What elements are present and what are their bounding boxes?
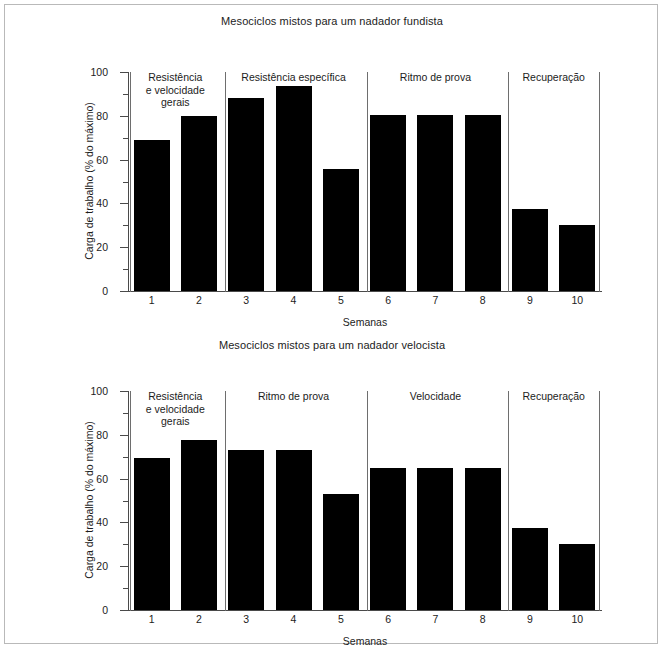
x-tick-label-5: 5	[317, 613, 364, 625]
phase-label-line: Velocidade	[365, 390, 507, 403]
y-tick-label: 100	[90, 66, 108, 78]
phase-label-line: Ritmo de prova	[223, 390, 365, 403]
y-axis-title-fundista: Carga de trabalho (% do máximo)	[83, 72, 95, 291]
phase-label-line: gerais	[128, 415, 223, 428]
x-tick-label-10: 10	[554, 613, 601, 625]
chart-figure-fundista: Mesociclos mistos para um nadador fundis…	[5, 9, 659, 327]
bar-week-7	[417, 115, 453, 291]
x-tick-label-8: 8	[459, 613, 506, 625]
bar-week-2	[181, 440, 217, 610]
bar-week-8	[465, 468, 501, 610]
bar-week-5	[323, 494, 359, 610]
y-axis-tick-labels-velocista: 020406080100	[112, 391, 128, 610]
phase-label-line: Resistência	[128, 390, 223, 403]
x-tick-label-4: 4	[270, 613, 317, 625]
bar-week-9	[512, 209, 548, 291]
phase-label-line: Recuperação	[506, 71, 601, 84]
bar-week-4	[276, 450, 312, 610]
bar-week-3	[228, 98, 264, 291]
phase-divider	[508, 391, 509, 611]
bar-week-7	[417, 468, 453, 610]
x-axis-line-velocista	[128, 610, 602, 611]
phase-divider	[508, 72, 509, 292]
phase-label-line: e velocidade	[128, 84, 223, 97]
y-axis-title-velocista: Carga de trabalho (% do máximo)	[83, 391, 95, 610]
x-tick-label-7: 7	[412, 294, 459, 306]
y-tick-label: 20	[96, 560, 108, 572]
phase-divider	[367, 72, 368, 292]
y-tick-major	[120, 610, 128, 611]
x-tick-label-9: 9	[506, 294, 553, 306]
chart-title-fundista: Mesociclos mistos para um nadador fundis…	[5, 15, 659, 27]
phase-divider	[225, 72, 226, 292]
phase-label: Resistência específica	[223, 71, 365, 84]
phase-label-line: Recuperação	[506, 390, 601, 403]
phase-label: Ritmo de prova	[223, 390, 365, 403]
chart-figure-velocista: Mesociclos mistos para um nadador veloci…	[5, 333, 659, 641]
x-tick-label-2: 2	[175, 294, 222, 306]
x-tick-label-8: 8	[459, 294, 506, 306]
chart-title-velocista: Mesociclos mistos para um nadador veloci…	[5, 339, 659, 351]
phase-label-line: Resistência	[128, 71, 223, 84]
x-tick-label-2: 2	[175, 613, 222, 625]
phase-label: Resistênciae velocidadegerais	[128, 390, 223, 428]
bar-week-8	[465, 115, 501, 291]
x-tick-label-5: 5	[317, 294, 364, 306]
x-tick-label-6: 6	[365, 294, 412, 306]
y-tick-label: 60	[96, 473, 108, 485]
x-tick-label-1: 1	[128, 613, 175, 625]
bar-week-1	[134, 140, 170, 291]
figure-page-border: Mesociclos mistos para um nadador fundis…	[4, 4, 658, 644]
x-tick-label-9: 9	[506, 613, 553, 625]
y-tick-label: 0	[102, 285, 108, 297]
bar-week-1	[134, 458, 170, 610]
y-axis-tick-labels-fundista: 020406080100	[112, 72, 128, 291]
x-axis-title-velocista: Semanas	[128, 635, 602, 647]
x-axis-title-fundista: Semanas	[128, 316, 602, 328]
phase-label: Recuperação	[506, 390, 601, 403]
x-tick-label-10: 10	[554, 294, 601, 306]
x-tick-label-3: 3	[223, 613, 270, 625]
y-tick-label: 40	[96, 516, 108, 528]
phase-label-line: gerais	[128, 96, 223, 109]
y-tick-label: 80	[96, 110, 108, 122]
phase-label-line: e velocidade	[128, 403, 223, 416]
y-tick-label: 60	[96, 154, 108, 166]
x-tick-label-4: 4	[270, 294, 317, 306]
x-tick-label-3: 3	[223, 294, 270, 306]
bar-week-4	[276, 86, 312, 291]
y-tick-major	[120, 291, 128, 292]
y-tick-label: 100	[90, 385, 108, 397]
x-axis-line-fundista	[128, 291, 602, 292]
y-tick-label: 20	[96, 241, 108, 253]
phase-divider	[599, 72, 600, 292]
y-tick-label: 80	[96, 429, 108, 441]
bar-week-3	[228, 450, 264, 610]
bar-week-10	[559, 544, 595, 610]
phase-divider	[367, 391, 368, 611]
phase-label-line: Ritmo de prova	[365, 71, 507, 84]
bar-week-6	[370, 468, 406, 610]
y-tick-label: 40	[96, 197, 108, 209]
bar-week-5	[323, 169, 359, 291]
bar-week-2	[181, 116, 217, 291]
phase-label: Ritmo de prova	[365, 71, 507, 84]
phase-label: Resistênciae velocidadegerais	[128, 71, 223, 109]
phase-label: Recuperação	[506, 71, 601, 84]
y-tick-label: 0	[102, 604, 108, 616]
x-tick-label-1: 1	[128, 294, 175, 306]
bar-week-6	[370, 115, 406, 291]
phase-divider	[599, 391, 600, 611]
x-tick-label-7: 7	[412, 613, 459, 625]
phase-label: Velocidade	[365, 390, 507, 403]
bar-week-9	[512, 528, 548, 610]
bar-week-10	[559, 225, 595, 291]
x-tick-label-6: 6	[365, 613, 412, 625]
phase-label-line: Resistência específica	[223, 71, 365, 84]
phase-divider	[225, 391, 226, 611]
